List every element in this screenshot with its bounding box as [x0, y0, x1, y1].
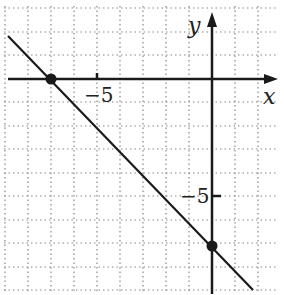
y-axis-arrow-icon	[207, 12, 217, 27]
y-tick-label: −5	[180, 184, 209, 208]
y-axis-label: y	[187, 13, 201, 38]
x-axis-label: x	[263, 84, 276, 109]
y-intercept-point	[207, 241, 218, 252]
x-intercept-point	[46, 74, 57, 85]
axes	[8, 22, 268, 294]
graph-line	[8, 36, 253, 290]
x-tick-label: −5	[84, 83, 113, 107]
grid	[4, 6, 278, 292]
coordinate-graph: −5 −5 y x	[0, 0, 284, 295]
x-axis-arrow-icon	[264, 74, 278, 84]
